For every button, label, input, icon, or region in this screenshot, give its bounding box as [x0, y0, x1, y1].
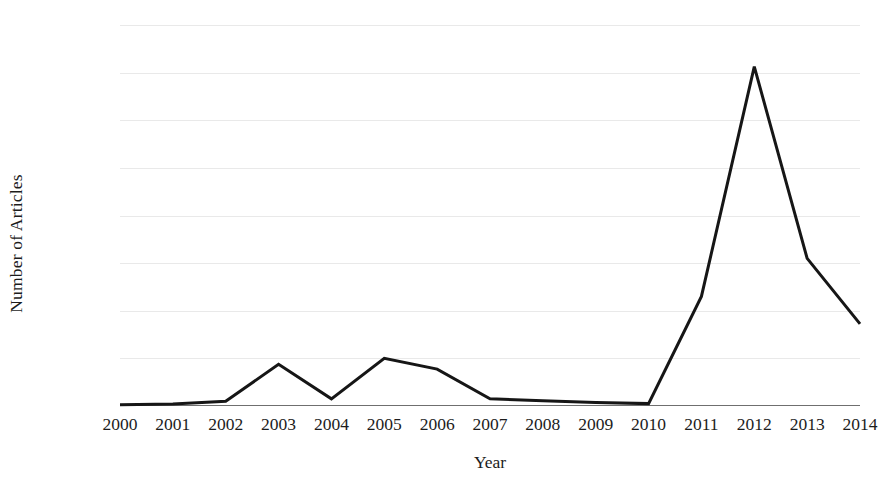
x-tick-layer: 2000200120022003200420052006200720082009…: [120, 406, 860, 436]
x-tick-label: 2006: [420, 416, 455, 434]
x-tick-label: 2003: [261, 416, 296, 434]
x-tick-label: 2008: [525, 416, 560, 434]
x-tick-label: 2002: [208, 416, 243, 434]
series-line: [120, 25, 860, 406]
x-tick-label: 2007: [473, 416, 508, 434]
x-tick-label: 2009: [578, 416, 613, 434]
x-tick-label: 2000: [103, 416, 138, 434]
x-tick-label: 2011: [684, 416, 718, 434]
x-tick-label: 2012: [737, 416, 772, 434]
x-tick-label: 2014: [843, 416, 878, 434]
y-axis-title: Number of Articles: [0, 0, 54, 487]
x-axis-title: Year: [120, 452, 860, 473]
plot-area: 02004006008001000120014001600 2000200120…: [120, 25, 860, 406]
x-tick-label: 2004: [314, 416, 349, 434]
line-chart-figure: Number of Articles 020040060080010001200…: [0, 0, 892, 487]
x-tick-label: 2005: [367, 416, 402, 434]
x-tick-label: 2013: [790, 416, 825, 434]
x-tick-label: 2010: [631, 416, 666, 434]
x-tick-label: 2001: [155, 416, 190, 434]
